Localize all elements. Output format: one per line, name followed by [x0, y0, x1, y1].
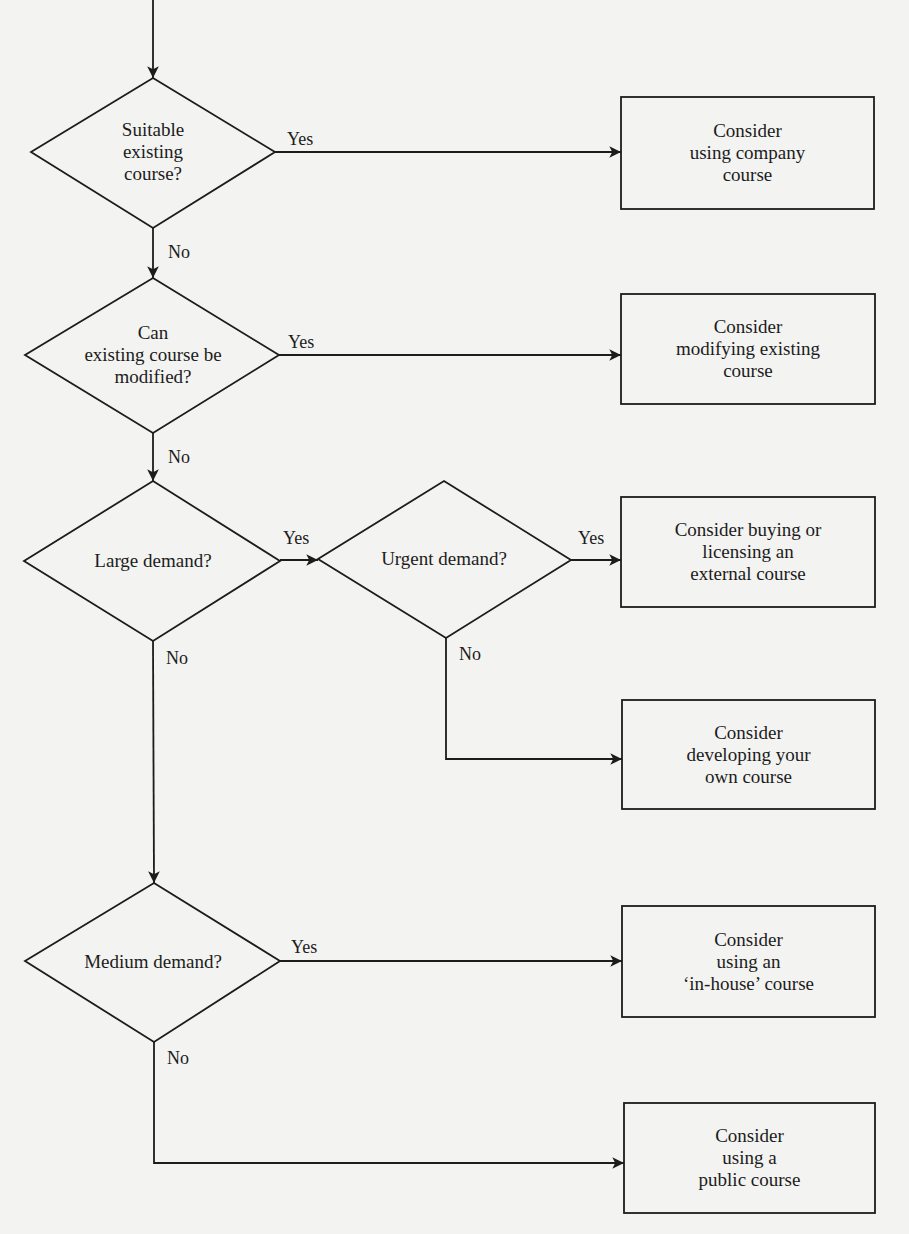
decision-can-modify-course: Can existing course be modified? [43, 315, 263, 395]
decision-suitable-existing-course: Suitable existing course? [53, 112, 253, 192]
edge-label-d2-yes: Yes [288, 332, 314, 352]
edge-label-d4-no: No [459, 644, 481, 664]
edge-label-d3-no: No [166, 648, 188, 668]
edge-label-d4-yes: Yes [578, 528, 604, 548]
outcome-public-course: Consider using a public course [624, 1103, 875, 1213]
outcome-inhouse-course: Consider using an ‘in-house’ course [622, 906, 875, 1017]
decision-large-demand: Large demand? [43, 547, 263, 575]
outcome-company-course: Consider using company course [621, 97, 874, 209]
edge-label-d1-no: No [168, 242, 190, 262]
outcome-external-course: Consider buying or licensing an external… [621, 497, 875, 607]
edge-d5-no [154, 1042, 624, 1163]
edge-label-d2-no: No [168, 447, 190, 467]
edge-d3-no [153, 641, 154, 883]
decision-medium-demand: Medium demand? [43, 948, 263, 976]
edge-label-d3-yes: Yes [283, 528, 309, 548]
edge-label-d1-yes: Yes [287, 129, 313, 149]
flowchart-canvas: Suitable existing course? Can existing c… [0, 0, 909, 1234]
outcome-modify-course: Consider modifying existing course [621, 294, 875, 404]
decision-urgent-demand: Urgent demand? [334, 545, 554, 573]
edge-label-d5-yes: Yes [291, 937, 317, 957]
outcome-develop-own-course: Consider developing your own course [622, 700, 875, 809]
edge-label-d5-no: No [167, 1048, 189, 1068]
